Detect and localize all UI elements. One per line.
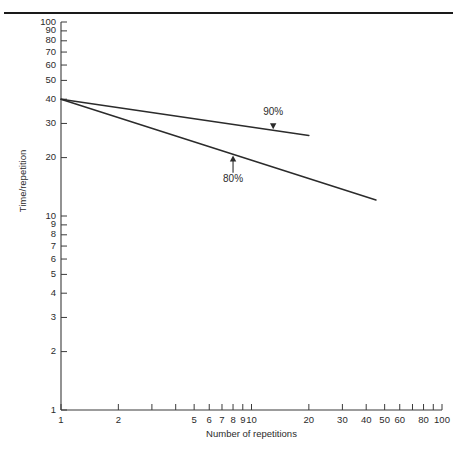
x-tick-label-80: 80 [418,414,429,425]
y-tick-label-8: 8 [51,228,56,239]
curve-annotations: 90%80% [223,106,283,183]
y-tick-label-20: 20 [45,151,56,162]
y-tick-label-40: 40 [45,93,56,104]
x-axis-title: Number of repetitions [206,428,297,439]
x-tick-label-8: 8 [230,414,235,425]
x-axis-ticks [61,404,442,410]
y-axis-ticks [61,22,67,410]
y-axis-tick-labels: 123456789102030405060708090100 [40,16,56,415]
y-tick-label-80: 80 [45,34,56,45]
y-tick-label-5: 5 [51,268,56,279]
x-tick-label-50: 50 [379,414,390,425]
y-tick-label-7: 7 [51,240,56,251]
chart-figure: 123456789102030405060708090100 125678910… [0,0,457,454]
x-tick-label-5: 5 [192,414,197,425]
x-tick-label-100: 100 [434,414,450,425]
x-tick-label-20: 20 [304,414,315,425]
annotation-arrow-head-80pct [230,156,236,162]
curve-80pct [61,99,376,200]
y-tick-label-3: 3 [51,311,56,322]
annotation-arrow-head-90pct [270,123,276,129]
y-tick-label-100: 100 [40,16,56,27]
x-tick-label-7: 7 [219,414,224,425]
x-tick-label-40: 40 [361,414,372,425]
y-tick-label-1: 1 [51,404,56,415]
x-tick-label-60: 60 [394,414,405,425]
top-horizontal-rule [4,12,453,14]
y-axis-title: Time/repetition [17,150,28,212]
y-tick-label-30: 30 [45,117,56,128]
y-tick-label-70: 70 [45,46,56,57]
x-tick-label-30: 30 [337,414,348,425]
y-tick-label-50: 50 [45,74,56,85]
x-tick-label-1: 1 [58,414,63,425]
y-tick-label-4: 4 [51,287,56,298]
x-tick-label-2: 2 [116,414,121,425]
log-log-learning-curve-plot: 123456789102030405060708090100 125678910… [0,0,457,454]
y-tick-label-10: 10 [45,210,56,221]
x-axis-tick-labels: 125678910203040506080100 [58,414,450,425]
annotation-label-80pct: 80% [223,173,243,184]
x-tick-label-6: 6 [207,414,212,425]
x-tick-label-9: 9 [240,414,245,425]
x-tick-label-10: 10 [246,414,257,425]
y-tick-label-60: 60 [45,59,56,70]
learning-curve-series [61,99,376,200]
y-tick-label-2: 2 [51,345,56,356]
annotation-label-90pct: 90% [263,106,283,117]
y-tick-label-6: 6 [51,253,56,264]
